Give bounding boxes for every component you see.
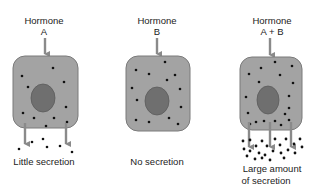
hormone-label: Hormone bbox=[137, 15, 176, 26]
nucleus bbox=[145, 87, 169, 115]
hormone-secretion-diagram: Hormone A Little secretion Hormone B bbox=[0, 0, 319, 192]
nucleus bbox=[31, 84, 55, 112]
hormone-label: Hormone bbox=[252, 15, 291, 26]
result-label: Little secretion bbox=[13, 156, 74, 167]
secreted-granules bbox=[242, 138, 304, 162]
result-label: Large amount bbox=[243, 163, 302, 174]
panel-hormone-a: Hormone A Little secretion bbox=[13, 15, 78, 167]
panel-hormone-b: Hormone B No secretion bbox=[126, 15, 190, 167]
result-label: No secretion bbox=[130, 156, 183, 167]
hormone-name: A bbox=[41, 26, 48, 37]
nucleus bbox=[257, 86, 279, 114]
hormone-name: A + B bbox=[261, 26, 284, 37]
result-label-line2: of secretion bbox=[241, 175, 290, 186]
hormone-name: B bbox=[154, 26, 160, 37]
hormone-label: Hormone bbox=[24, 15, 63, 26]
panel-hormone-a-plus-b: Hormone A + B bbox=[240, 15, 303, 186]
